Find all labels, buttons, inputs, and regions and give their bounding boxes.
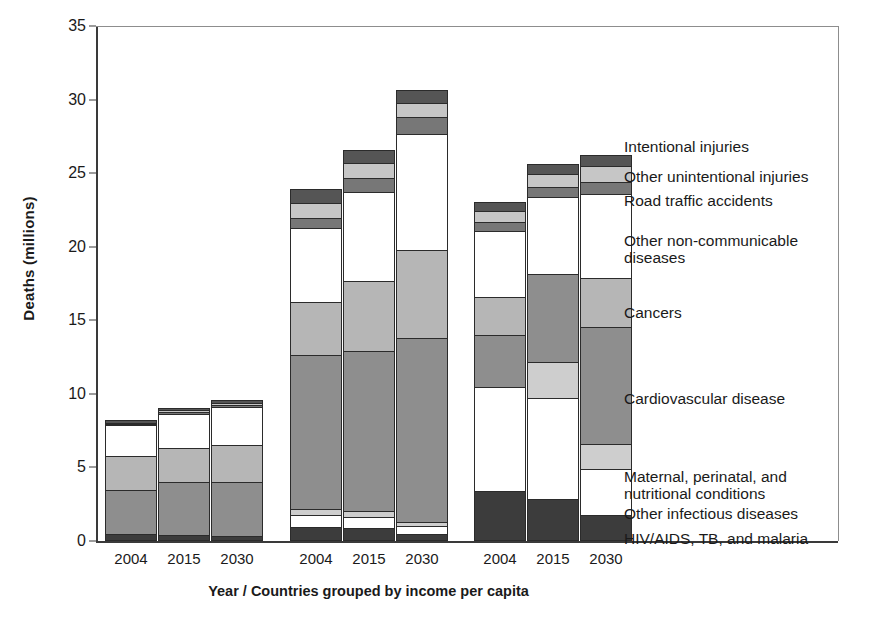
bar-segment — [396, 534, 448, 541]
chart-figure: Deaths (millions) 05101520253035 2004201… — [0, 0, 872, 625]
bar-segment — [105, 425, 157, 456]
bar-stack — [474, 26, 526, 541]
bar-segment — [527, 274, 579, 362]
bar-stack — [158, 26, 210, 541]
bar-segment — [474, 202, 526, 212]
bar-segment — [580, 444, 632, 469]
bar-segment — [396, 117, 448, 134]
bar-segment — [105, 420, 157, 422]
x-axis-label: Year / Countries grouped by income per c… — [208, 583, 529, 599]
bar-segment — [343, 163, 395, 178]
bar-segment — [527, 499, 579, 541]
bar-segment — [290, 228, 342, 302]
legend-entry: Maternal, perinatal, and nutritional con… — [624, 468, 787, 502]
bar-segment — [211, 403, 263, 405]
bar-segment — [396, 103, 448, 117]
bar-segment — [343, 150, 395, 163]
bar-stack — [396, 26, 448, 541]
bar-segment — [396, 522, 448, 526]
bar-segment — [580, 155, 632, 166]
legend-entry: Road traffic accidents — [624, 192, 773, 209]
legend-entry: HIV/AIDS, TB, and malaria — [624, 530, 808, 547]
bar-segment — [290, 218, 342, 228]
bar-segment — [527, 398, 579, 500]
bar-segment — [580, 327, 632, 444]
bar-segment — [105, 534, 157, 541]
bar-segment — [105, 423, 157, 424]
bar-segment — [290, 189, 342, 203]
bar-segment — [343, 511, 395, 517]
legend-entry: Other infectious diseases — [624, 505, 798, 522]
bar-segment — [158, 448, 210, 482]
bar-segment — [474, 335, 526, 387]
bar-segment — [343, 281, 395, 351]
bar-segment — [158, 535, 210, 541]
bar-segment — [396, 90, 448, 103]
bar-stack — [105, 26, 157, 541]
bar-segment — [343, 517, 395, 529]
bar-segment — [396, 250, 448, 338]
x-tick-label: 2004 — [299, 550, 332, 567]
x-tick-label: 2015 — [167, 550, 200, 567]
legend-entry: Intentional injuries — [624, 138, 749, 155]
bar-segment — [474, 211, 526, 222]
bar-segment — [396, 526, 448, 534]
bar-segment — [211, 445, 263, 482]
bar-segment — [290, 515, 342, 528]
bar-segment — [158, 408, 210, 410]
bar-segment — [527, 174, 579, 187]
bar-stack — [527, 26, 579, 541]
x-tick-label: 2015 — [536, 550, 569, 567]
x-tick-label: 2004 — [114, 550, 147, 567]
legend-entry: Other unintentional injuries — [624, 168, 808, 185]
bar-segment — [211, 400, 263, 403]
bar-segment — [105, 490, 157, 534]
bar-stack — [343, 26, 395, 541]
bar-segment — [158, 410, 210, 412]
bar-segment — [396, 338, 448, 522]
bar-segment — [474, 231, 526, 297]
x-tick-label: 2030 — [220, 550, 253, 567]
bar-segment — [527, 164, 579, 174]
bar-segment — [211, 405, 263, 407]
bar-segment — [158, 412, 210, 414]
bar-segment — [474, 222, 526, 230]
bar-segment — [396, 134, 448, 250]
legend-entry: Cardiovascular disease — [624, 390, 785, 407]
bar-segment — [290, 509, 342, 514]
bar-segment — [105, 424, 157, 425]
x-tick-label: 2015 — [352, 550, 385, 567]
bar-segment — [211, 407, 263, 445]
bar-segment — [290, 355, 342, 510]
bar-segment — [527, 362, 579, 397]
bar-segment — [474, 387, 526, 491]
bar-segment — [290, 302, 342, 355]
bar-stack — [211, 26, 263, 541]
bar-segment — [343, 178, 395, 192]
bar-segment — [343, 351, 395, 511]
bar-segment — [158, 482, 210, 535]
legend-entry: Cancers — [624, 304, 682, 321]
x-tick-label: 2030 — [405, 550, 438, 567]
bar-stack — [580, 26, 632, 541]
bar-segment — [474, 297, 526, 335]
bar-segment — [290, 527, 342, 541]
x-tick-label: 2004 — [483, 550, 516, 567]
bar-segment — [158, 414, 210, 449]
bar-segment — [343, 528, 395, 541]
bar-segment — [527, 187, 579, 197]
bar-segment — [527, 197, 579, 274]
bar-segment — [211, 536, 263, 541]
bar-stack — [290, 26, 342, 541]
x-tick-label: 2030 — [589, 550, 622, 567]
bar-segment — [105, 456, 157, 490]
bar-segment — [290, 203, 342, 218]
bar-segment — [343, 192, 395, 282]
legend-entry: Other non-communicable diseases — [624, 232, 798, 266]
bar-segment — [211, 482, 263, 536]
bar-segment — [474, 491, 526, 541]
